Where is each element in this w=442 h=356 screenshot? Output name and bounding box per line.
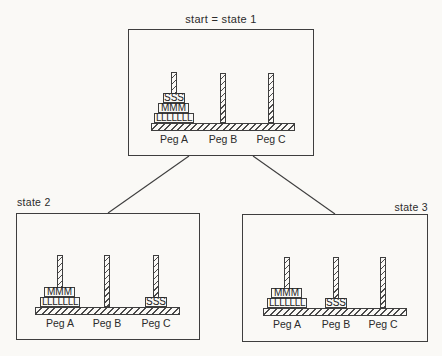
state3-base-bar [263,308,407,316]
state3-disk-large: LLLLLLL [267,298,307,308]
state3-peg-c-label: Peg C [358,318,408,330]
state3-disk-small: SSS [325,298,347,308]
state1-title: start = state 1 [128,13,314,25]
state3-peg-a-label: Peg A [262,318,312,330]
state1-disk-small: SSS [163,93,185,103]
connector-state1-to-state3 [253,156,335,214]
state3-peg-b-label: Peg B [311,318,361,330]
state3-peg-c-icon [380,257,386,308]
state1-base-bar [151,123,295,131]
state1-peg-a-label: Peg A [149,133,199,145]
connector-state1-to-state2 [108,156,189,213]
state3-title: state 3 [350,201,428,213]
state2-disk-large: LLLLLLL [40,297,80,307]
state2-peg-c-label: Peg C [131,317,181,329]
state2-base-bar [35,307,180,315]
state2-box: LLLLLLL MMM SSS Peg A Peg B Peg C [16,213,200,340]
state1-disk-medium: MMM [158,103,189,113]
state1-disk-large: LLLLLLL [154,113,194,123]
state1-peg-b-icon [220,73,226,123]
state2-disk-medium: MMM [44,287,75,297]
state2-title: state 2 [17,196,51,208]
state1-peg-c-label: Peg C [246,133,296,145]
state1-peg-b-label: Peg B [198,133,248,145]
state1-box: LLLLLLL MMM SSS Peg A Peg B Peg C [128,29,314,156]
state2-peg-b-icon [104,255,110,307]
state2-disk-small: SSS [145,297,167,307]
tower-of-hanoi-state-diagram: start = state 1 LLLLLLL MMM SSS Peg A Pe… [0,0,442,356]
state3-disk-medium: MMM [271,288,302,298]
state3-box: LLLLLLL MMM SSS Peg A Peg B Peg C [242,214,428,342]
state1-peg-c-icon [268,73,274,123]
state2-peg-b-label: Peg B [82,317,132,329]
state2-peg-a-label: Peg A [35,317,85,329]
